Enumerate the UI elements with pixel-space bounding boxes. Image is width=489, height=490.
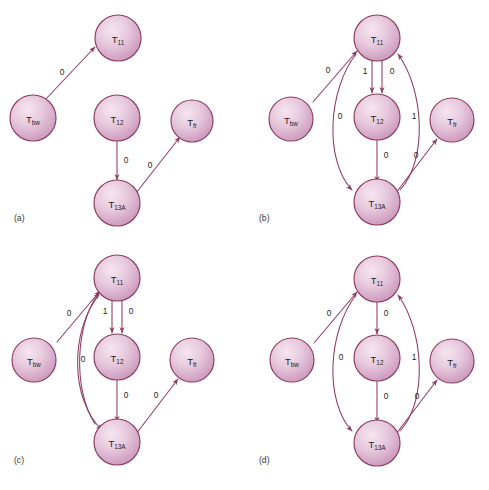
panel-c-caption: (c)	[14, 455, 24, 465]
edge-label-c-11-12-left: 1	[103, 306, 108, 316]
edge-d-t13a-to-t11	[398, 295, 419, 431]
edge-label-c-11-13a: 0	[81, 354, 86, 364]
diagram-canvas: T11 Tbw T12	[0, 0, 489, 490]
edge-label-c-12-13a: 0	[124, 390, 129, 400]
node-t13a[interactable]: T13A	[94, 180, 140, 226]
edge-label-b-12-13a: 0	[384, 150, 389, 160]
edge-label-b-13a-f: 0	[414, 150, 419, 160]
node-c-t11[interactable]: T11	[94, 255, 140, 301]
node-c-tf[interactable]: Tfr	[170, 338, 214, 382]
node-d-t13a[interactable]: T13A	[354, 420, 400, 466]
panel-d-caption: (d)	[259, 455, 270, 465]
edge-label-b-13a-11: 1	[412, 111, 417, 121]
figure-root: T11 Tbw T12	[0, 0, 489, 490]
panel-a-nodes: T11 Tbw T12	[10, 15, 213, 226]
node-c-t12[interactable]: T12	[94, 334, 140, 380]
edge-label-d-13a-11: 1	[412, 352, 417, 362]
node-d-t12[interactable]: T12	[354, 335, 400, 381]
edge-label-d-13a-f: 0	[415, 391, 420, 401]
panel-b-caption: (b)	[259, 213, 270, 223]
edge-b-t13a-to-t11	[398, 54, 419, 190]
edge-b-tbw-to-t11	[313, 51, 357, 102]
node-d-tbw[interactable]: Tbw	[270, 338, 314, 382]
panel-c: T11 Tbw T12	[12, 255, 214, 465]
panel-b: T11 Tbw T12	[259, 15, 474, 225]
edge-label-c-bw-11: 0	[67, 308, 72, 318]
edge-tbw-to-t11	[44, 47, 95, 101]
node-b-tf[interactable]: Tfr	[430, 98, 474, 142]
edge-label-d-12-13a: 0	[384, 391, 389, 401]
edge-label-bw-11: 0	[60, 67, 65, 77]
node-tbw[interactable]: Tbw	[10, 95, 56, 141]
edge-label-d-11-12: 0	[384, 308, 389, 318]
edge-b-t13a-to-tf	[395, 139, 437, 194]
edge-c-tbw-to-t11	[57, 291, 100, 342]
panel-a: T11 Tbw T12	[10, 15, 213, 226]
node-t12[interactable]: T12	[94, 95, 140, 141]
node-d-tf[interactable]: Tfr	[430, 339, 474, 383]
edge-d-t11-to-t13a	[333, 295, 356, 431]
panel-c-nodes: T11 Tbw T12	[12, 255, 214, 465]
node-t11[interactable]: T11	[95, 15, 141, 61]
edge-d-tbw-to-t11	[314, 292, 357, 343]
panel-d-nodes: T11 Tbw T12	[270, 256, 474, 466]
edge-label-d-bw-11: 0	[327, 308, 332, 318]
edge-label-c-13a-f: 0	[154, 390, 159, 400]
node-b-t12[interactable]: T12	[354, 94, 400, 140]
node-c-tbw[interactable]: Tbw	[12, 338, 56, 382]
edge-t13a-to-tf	[136, 137, 180, 193]
edge-label-d-11-13a: 0	[339, 352, 344, 362]
edge-d-t13a-to-tf	[396, 380, 437, 434]
edge-label-b-11-12-left: 1	[363, 66, 368, 76]
edge-label-b-11-13a: 0	[338, 111, 343, 121]
edge-label-c-11-12-right: 0	[129, 306, 134, 316]
node-b-tbw[interactable]: Tbw	[269, 97, 313, 141]
edge-label-b-bw-11: 0	[326, 65, 331, 75]
edge-c-t13a-to-tf	[136, 379, 178, 434]
node-b-t11[interactable]: T11	[354, 15, 400, 61]
node-d-t11[interactable]: T11	[354, 256, 400, 302]
node-b-t13a[interactable]: T13A	[354, 179, 400, 225]
panel-b-nodes: T11 Tbw T12	[269, 15, 474, 225]
edge-label-13a-f: 0	[148, 160, 153, 170]
panel-d: T11 Tbw T12	[259, 256, 474, 466]
node-tf[interactable]: Tfr	[171, 100, 213, 142]
edge-label-b-11-12-right: 0	[390, 66, 395, 76]
edge-label-12-13a: 0	[124, 155, 129, 165]
panel-a-caption: (a)	[14, 213, 25, 223]
node-c-t13a[interactable]: T13A	[94, 419, 140, 465]
